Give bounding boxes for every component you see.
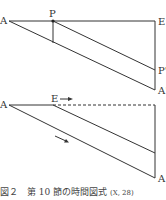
figure-caption: 図２ 第 10 節の時間図式 (X, 28)	[0, 185, 166, 198]
label-A-bottom-right: A	[157, 173, 166, 184]
top-diagonal-A-Aprime	[9, 21, 155, 90]
top-diagonal-P-Pprime	[53, 21, 155, 70]
label-P-prime: P'	[158, 65, 166, 76]
point-P-dot	[51, 19, 54, 22]
label-A-prime: A'	[157, 85, 166, 96]
arrow-E-head	[68, 97, 73, 101]
caption-title: 第 10 節の時間図式	[27, 187, 107, 197]
label-A-bottom-left: A	[0, 99, 8, 110]
top-diagram	[9, 21, 155, 90]
caption-figure-number: 図２	[0, 187, 18, 197]
label-E-bottom: E	[51, 93, 58, 104]
time-diagram: A P E P' A' A E A	[0, 0, 166, 200]
caption-reference: (X, 28)	[110, 189, 134, 197]
arrow-diagonal-shaft	[55, 136, 66, 141]
bottom-diagonal-E	[53, 105, 155, 153]
label-A-top: A	[0, 15, 8, 26]
label-E-top: E	[158, 16, 165, 27]
bottom-diagonal-A	[9, 105, 155, 178]
label-P: P	[49, 8, 56, 19]
bottom-diagram	[9, 99, 155, 178]
